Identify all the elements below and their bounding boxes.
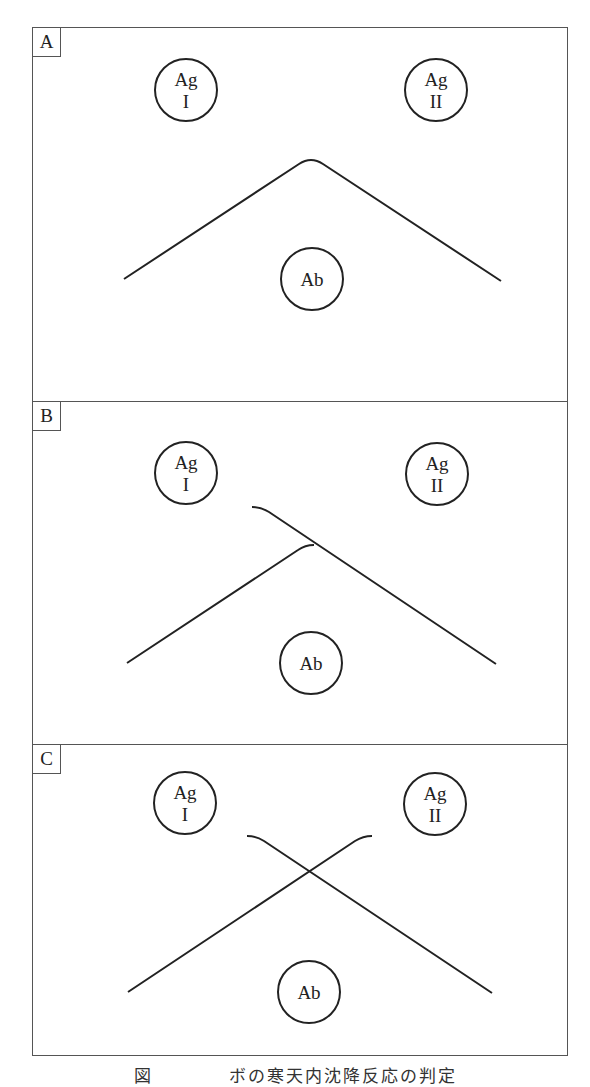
figure-caption: 図 ボの寒天内沈降反応の判定 (0, 1062, 590, 1087)
well-ag-i: Ag I (154, 772, 216, 834)
well-ag-ii-line1: Ag (424, 69, 448, 90)
well-ag-i: Ag I (155, 442, 217, 504)
well-ab: Ab (280, 632, 342, 694)
precipitin-line-ag-ii (128, 836, 372, 992)
well-ag-i: Ag I (155, 59, 217, 121)
well-ag-ii-line2: II (430, 91, 443, 112)
well-ag-ii-line2: II (429, 805, 442, 826)
precipitin-line-identity (124, 160, 501, 281)
well-ag-ii: Ag II (404, 773, 466, 835)
well-ab: Ab (278, 961, 340, 1023)
panel-c-diagram: Ag I Ag II Ab (33, 745, 569, 1058)
well-ag-i-line2: I (183, 474, 189, 495)
well-ab-label: Ab (299, 653, 322, 674)
well-ag-ii-line2: II (431, 475, 444, 496)
panel-a: A Ag I Ag II Ab (33, 28, 567, 401)
well-ag-i-line1: Ag (174, 452, 198, 473)
well-ab-label: Ab (297, 982, 320, 1003)
well-ag-ii-line1: Ag (423, 783, 447, 804)
panel-c: C Ag I Ag II Ab (33, 744, 567, 1057)
panel-b: B Ag I Ag II Ab (33, 401, 567, 744)
well-ag-ii: Ag II (405, 59, 467, 121)
well-ab-label: Ab (300, 269, 323, 290)
figure-frame: A Ag I Ag II Ab B Ag I (32, 27, 568, 1056)
well-ag-i-line2: I (183, 91, 189, 112)
precipitin-line-ag-i (247, 836, 492, 993)
panel-b-diagram: Ag I Ag II Ab (33, 402, 569, 745)
well-ag-i-line2: I (182, 804, 188, 825)
well-ag-ii: Ag II (406, 443, 468, 505)
well-ag-i-line1: Ag (173, 782, 197, 803)
well-ag-ii-line1: Ag (425, 453, 449, 474)
well-ag-i-line1: Ag (174, 69, 198, 90)
well-ab: Ab (281, 248, 343, 310)
panel-a-diagram: Ag I Ag II Ab (33, 28, 569, 401)
